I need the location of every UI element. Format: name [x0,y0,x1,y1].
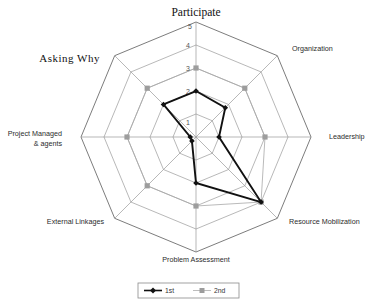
radar-chart: 1 2 3 4 5 Participate Organization Leade… [0,0,379,307]
category-label-organization: Organization [292,44,333,53]
datapoint-2nd-5 [145,183,150,188]
tick-label-5: 5 [188,23,192,30]
datapoint-1st-4 [193,180,199,186]
legend-label-2nd: 2nd [214,287,226,294]
datapoint-2nd-7 [145,86,150,91]
datapoint-2nd-0 [193,65,198,70]
category-label-project-managed-line2: & agents [34,139,63,148]
radar-chart-svg: 1 2 3 4 5 Participate Organization Leade… [0,0,379,307]
datapoint-2nd-4 [193,203,198,208]
tick-label-1: 1 [186,119,190,126]
category-label-participate: Participate [171,6,220,19]
chart-legend: 1st 2nd [138,283,239,298]
datapoint-2nd-1 [242,86,247,91]
radar-grid [81,22,311,252]
tick-label-2: 2 [186,88,190,95]
category-label-problem-assessment: Problem Assessment [162,255,230,264]
radar-series-1st [161,88,264,205]
datapoint-2nd-2 [262,134,267,139]
category-label-project-managed: Project Managed [8,129,62,138]
tick-label-3: 3 [186,65,190,72]
tick-label-4: 4 [186,42,190,49]
radial-tick-labels: 1 2 3 4 5 [186,23,192,126]
category-label-asking-why: Asking Why [39,52,100,64]
legend-marker-2nd-square [200,288,205,293]
category-label-resource-mobilization: Resource Mobilization [289,217,360,226]
legend-label-1st: 1st [165,287,174,294]
category-label-leadership: Leadership [329,132,365,141]
category-label-external-linkages: External Linkages [47,217,105,226]
datapoint-2nd-6 [124,134,129,139]
